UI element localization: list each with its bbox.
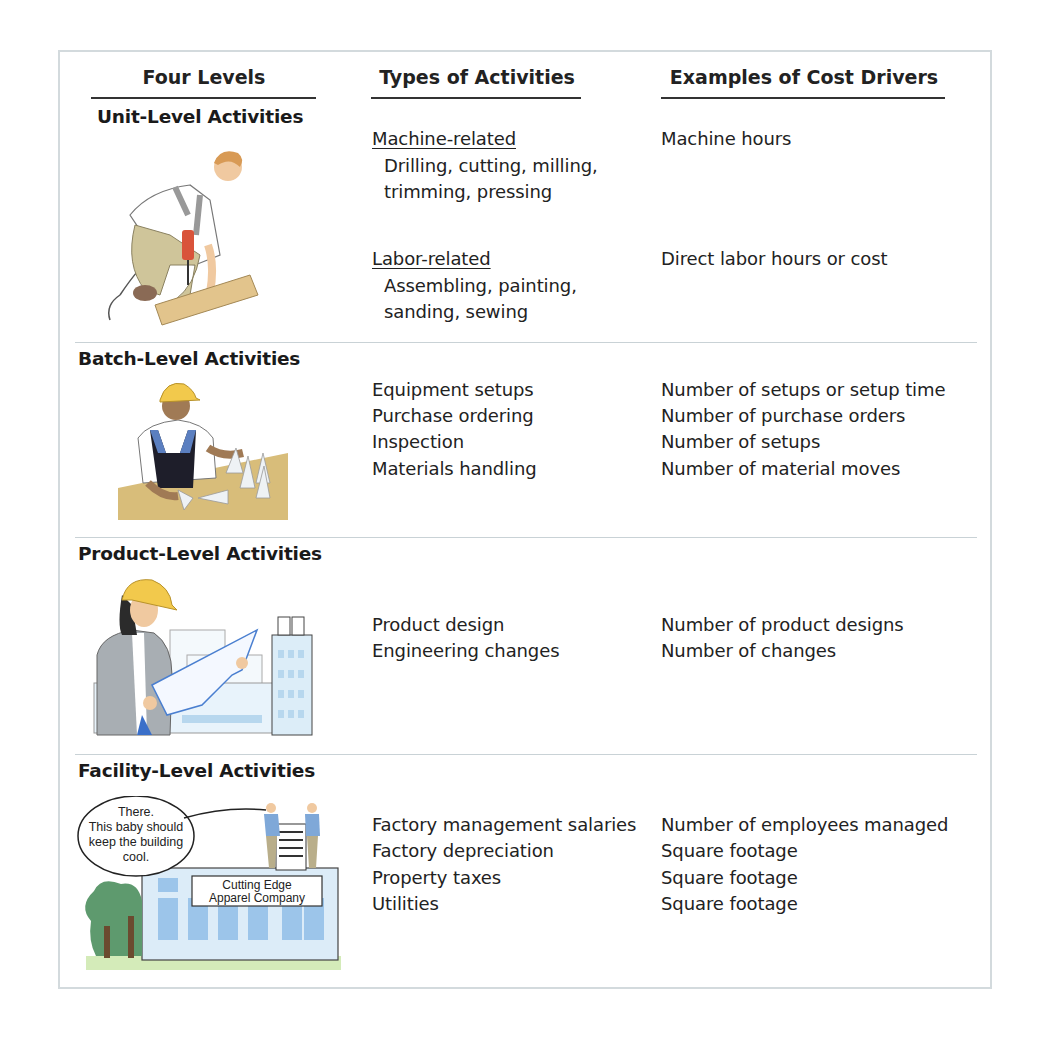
svg-text:Cutting Edge: Cutting Edge bbox=[222, 878, 292, 892]
batch-activity-4: Materials handling bbox=[372, 456, 537, 483]
unit-labor-driver: Direct labor hours or cost bbox=[661, 246, 887, 273]
header-underline bbox=[91, 97, 316, 99]
svg-text:Apparel Company: Apparel Company bbox=[209, 891, 305, 905]
facility-activity-3: Property taxes bbox=[372, 865, 501, 892]
row-separator bbox=[75, 537, 977, 538]
product-activity-2: Engineering changes bbox=[372, 638, 559, 665]
batch-driver-1: Number of setups or setup time bbox=[661, 377, 945, 404]
row-separator bbox=[75, 342, 977, 343]
header-four-levels: Four Levels bbox=[92, 66, 316, 88]
unit-machine-driver: Machine hours bbox=[661, 126, 791, 153]
unit-labor-activity-line1: Assembling, painting, bbox=[372, 273, 577, 300]
product-driver-2: Number of changes bbox=[661, 638, 836, 665]
level-title-product: Product-Level Activities bbox=[78, 543, 322, 564]
batch-driver-3: Number of setups bbox=[661, 429, 820, 456]
batch-activity-3: Inspection bbox=[372, 429, 464, 456]
batch-driver-4: Number of material moves bbox=[661, 456, 900, 483]
row-separator bbox=[75, 754, 977, 755]
level-title-facility: Facility-Level Activities bbox=[78, 760, 315, 781]
unit-subheading-machine: Machine-related bbox=[372, 126, 516, 153]
unit-machine-activity-line2: trimming, pressing bbox=[372, 179, 552, 206]
factory-building-icon: Cutting Edge Apparel Company There. This… bbox=[76, 796, 341, 974]
product-activity-1: Product design bbox=[372, 612, 504, 639]
batch-activity-1: Equipment setups bbox=[372, 377, 534, 404]
facility-activity-1: Factory management salaries bbox=[372, 812, 636, 839]
batch-activity-2: Purchase ordering bbox=[372, 403, 534, 430]
header-underline bbox=[371, 97, 581, 99]
worker-with-cones-icon bbox=[118, 378, 288, 523]
unit-labor-activity-line2: sanding, sewing bbox=[372, 299, 528, 326]
product-driver-1: Number of product designs bbox=[661, 612, 904, 639]
facility-activity-2: Factory depreciation bbox=[372, 838, 554, 865]
facility-activity-4: Utilities bbox=[372, 891, 439, 918]
svg-text:cool.: cool. bbox=[123, 850, 149, 864]
engineer-with-blueprint-icon bbox=[92, 575, 317, 740]
unit-machine-activity-line1: Drilling, cutting, milling, bbox=[372, 153, 598, 180]
level-title-unit: Unit-Level Activities bbox=[97, 106, 303, 127]
unit-subheading-labor: Labor-related bbox=[372, 246, 491, 273]
header-types-of-activities: Types of Activities bbox=[372, 66, 582, 88]
facility-driver-3: Square footage bbox=[661, 865, 798, 892]
worker-drilling-icon bbox=[100, 145, 265, 330]
svg-text:This baby should: This baby should bbox=[89, 820, 184, 834]
facility-driver-4: Square footage bbox=[661, 891, 798, 918]
level-title-batch: Batch-Level Activities bbox=[78, 348, 300, 369]
facility-driver-1: Number of employees managed bbox=[661, 812, 948, 839]
batch-driver-2: Number of purchase orders bbox=[661, 403, 905, 430]
svg-text:keep the building: keep the building bbox=[89, 835, 184, 849]
header-cost-drivers: Examples of Cost Drivers bbox=[662, 66, 946, 88]
svg-text:There.: There. bbox=[118, 805, 154, 819]
header-underline bbox=[661, 97, 945, 99]
facility-driver-2: Square footage bbox=[661, 838, 798, 865]
